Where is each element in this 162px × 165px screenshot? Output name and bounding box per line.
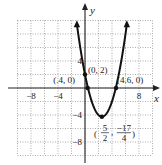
y-tick-label: −8: [72, 137, 82, 147]
curve-arrow-icon: [74, 20, 80, 27]
vertex-label-den2: 4: [122, 133, 127, 143]
x-tick-label: −4: [53, 91, 63, 101]
vertex-label-num1: 5: [103, 123, 108, 133]
vertex-label-open-paren: (: [94, 129, 97, 139]
x-tick-label: −8: [26, 91, 36, 101]
y-tick-label: −4: [72, 110, 82, 120]
parabola-chart: x y −8−484−4−8 (0, 2)(.4, 0)(4.6, 0)(52,…: [0, 0, 162, 165]
vertex-label-num2: −17: [117, 123, 132, 133]
y-axis-arrow-icon: [82, 3, 88, 10]
right-root-point: [114, 86, 118, 90]
left-root-point: [86, 86, 90, 90]
right-root-label: (4.6, 0): [117, 75, 143, 85]
x-tick-label: 8: [137, 91, 142, 101]
y-axis-label: y: [89, 4, 95, 16]
vertex-point: [100, 114, 104, 118]
y-intercept-label: (0, 2): [88, 65, 108, 75]
vertex-label-den1: 2: [103, 133, 108, 143]
curve-arrow-icon: [124, 20, 130, 27]
x-axis-arrow-icon: [153, 85, 160, 91]
y-intercept-point: [83, 72, 87, 76]
vertex-label-comma: ,: [111, 127, 113, 137]
left-root-label: (.4, 0): [53, 75, 75, 85]
x-axis-label: x: [153, 92, 159, 104]
vertex-label-close-paren: ): [132, 129, 135, 139]
